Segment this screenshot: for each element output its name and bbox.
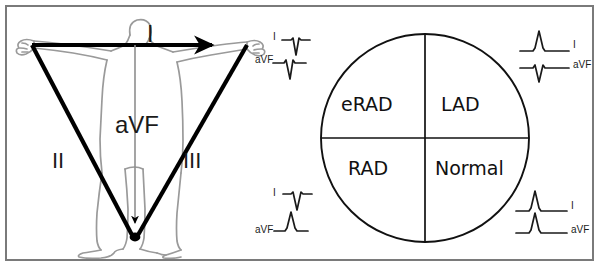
diagram-frame: I aVF II III eRAD LAD RAD Normal I aVF — [5, 5, 594, 261]
einthoven-triangle-panel: I aVF II III — [7, 7, 275, 259]
ecg-lower-left: I aVF — [254, 183, 332, 245]
lead-II-vector — [32, 45, 132, 235]
ecg-lower-right: I aVF — [513, 185, 595, 245]
axis-quadrant-panel: eRAD LAD RAD Normal I aVF I — [255, 7, 596, 259]
ecg-trace-I-negative — [282, 38, 310, 55]
ecg-trace-aVF-positive — [516, 213, 567, 233]
diagram-canvas: I aVF II III eRAD LAD RAD Normal I aVF — [0, 0, 601, 268]
quadrant-label-normal: Normal — [435, 159, 504, 178]
ecg-trace-I-negative — [283, 192, 312, 210]
ecg-trace-I-positive — [520, 31, 569, 51]
ecg-upper-right: I aVF — [517, 29, 595, 83]
ecg-trace-I-positive — [516, 191, 567, 211]
quadrant-label-lad: LAD — [441, 95, 480, 114]
quadrant-label-rad: RAD — [348, 159, 388, 178]
ecg-trace-aVF-negative — [273, 60, 306, 79]
ecg-trace-aVF-positive — [274, 212, 308, 231]
lead-II-label: II — [52, 150, 64, 172]
lead-III-label: III — [183, 150, 201, 172]
lead-III-vector — [138, 45, 247, 235]
lead-I-label: I — [147, 23, 153, 46]
ecg-upper-left: I aVF — [254, 29, 324, 81]
quadrant-label-erad: eRAD — [341, 95, 393, 114]
lead-aVF-label: aVF — [115, 113, 159, 137]
triangle-bottom-vertex — [130, 233, 141, 242]
ecg-trace-aVF-negative — [520, 65, 569, 82]
